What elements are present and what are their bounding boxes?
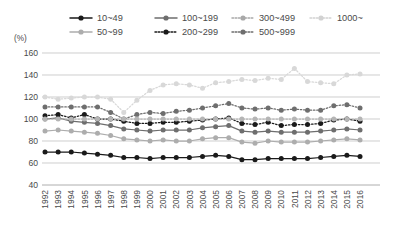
data-point [134,121,139,126]
x-tick-label-2016: 2016 [355,190,365,209]
data-point [187,155,192,160]
data-point [358,117,363,122]
data-point [161,155,166,160]
data-point [187,117,192,122]
legend-marker [318,15,323,20]
data-point [253,78,258,83]
data-point [226,101,231,106]
data-point [213,103,218,108]
x-tick-label-2006: 2006 [224,190,234,209]
data-point [253,107,258,112]
data-point [95,152,100,157]
data-point [187,128,192,133]
data-point [344,136,349,141]
data-point [95,121,100,126]
data-point [239,140,244,145]
data-point [200,106,205,111]
data-point [108,97,113,102]
x-tick-label-1995: 1995 [80,190,90,209]
data-point [121,126,126,131]
x-tick-label-2003: 2003 [185,190,195,209]
data-point [266,106,271,111]
legend-marker [240,29,245,34]
legend-item-300-499[interactable]: 300~499 [232,13,295,23]
data-point [161,128,166,133]
data-point [358,137,363,142]
data-point [253,141,258,146]
data-point [43,150,48,155]
data-point [239,117,244,122]
data-point [82,130,87,135]
data-point [253,117,258,122]
legend-item-1000-[interactable]: 1000~ [310,13,363,23]
data-point [331,103,336,108]
line-chart: 10~49100~199300~4991000~50~99200~299500~… [0,0,398,227]
data-point [134,117,139,122]
data-point [121,136,126,141]
legend-label: 500~999 [259,27,295,37]
data-point [69,150,74,155]
data-point [331,137,336,142]
x-tick-label-2007: 2007 [237,190,247,209]
y-tick-label-80: 80 [28,136,38,146]
legend-marker [163,29,168,34]
x-axis-labels: 1992199319941995199619971998199920002001… [40,190,365,209]
data-point [95,104,100,109]
data-point [292,122,297,127]
legend-label: 100~199 [182,13,218,23]
data-point [161,137,166,142]
legend-item-500-999[interactable]: 500~999 [232,27,295,37]
y-tick-label-100: 100 [24,114,39,124]
data-point [239,157,244,162]
data-point [279,130,284,135]
data-point [134,112,139,117]
data-point [82,112,87,117]
x-tick-label-2010: 2010 [276,190,286,209]
data-point [108,123,113,128]
data-point [292,130,297,135]
legend-item-200-299[interactable]: 200~299 [155,27,218,37]
x-tick-label-1994: 1994 [66,190,76,209]
data-point [266,129,271,134]
data-point [358,154,363,159]
y-tick-label-120: 120 [24,92,39,102]
data-point [266,117,271,122]
data-point [43,95,48,100]
data-point [121,155,126,160]
legend-label: 1000~ [337,13,363,23]
data-point [344,102,349,107]
data-point [292,117,297,122]
data-point [266,139,271,144]
data-point [134,155,139,160]
data-point [318,117,323,122]
data-point [292,107,297,112]
data-point [82,104,87,109]
data-point [305,122,310,127]
data-point [305,156,310,161]
data-point [239,106,244,111]
data-point [187,82,192,87]
data-point [344,153,349,158]
chart-legend: 10~49100~199300~4991000~50~99200~299500~… [70,13,363,37]
data-point [344,126,349,131]
legend-label: 10~49 [97,13,123,23]
data-point [56,104,61,109]
data-point [174,128,179,133]
data-point [358,71,363,76]
data-point [56,112,61,117]
y-tick-label-40: 40 [28,180,38,190]
data-point [318,108,323,113]
data-point [121,117,126,122]
legend-label: 300~499 [259,13,295,23]
legend-item-10-49[interactable]: 10~49 [70,13,123,23]
data-point [148,117,153,122]
data-point [200,136,205,141]
data-point [292,66,297,71]
x-tick-label-1996: 1996 [93,190,103,209]
data-point [108,110,113,115]
x-tick-label-1999: 1999 [132,190,142,209]
data-point [266,156,271,161]
legend-item-100-199[interactable]: 100~199 [155,13,218,23]
legend-item-50-99[interactable]: 50~99 [70,27,123,37]
data-point [279,117,284,122]
